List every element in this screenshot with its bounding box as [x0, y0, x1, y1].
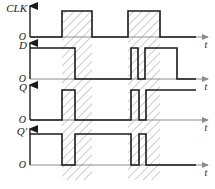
clock-band-2: [128, 11, 160, 180]
time-label-qprime: t: [205, 167, 208, 178]
signal-label-qprime: Q': [17, 125, 28, 137]
time-label-d: t: [205, 81, 208, 92]
origin-label-qprime: O: [19, 159, 26, 170]
waveform-qprime: [30, 134, 196, 165]
waveform-clk: [30, 11, 196, 37]
waveforms-group: [30, 11, 196, 165]
signal-label-d: D: [18, 39, 27, 51]
clock-band-1: [62, 11, 92, 180]
timing-diagram-figure: CLKOtDOtQOtQ'Ot: [0, 0, 215, 189]
time-label-q: t: [205, 122, 208, 133]
signal-label-clk: CLK: [6, 2, 27, 14]
waveform-d: [30, 48, 196, 79]
waveform-q: [30, 90, 196, 120]
signal-label-q: Q: [19, 81, 27, 93]
time-label-clk: t: [205, 39, 208, 50]
timing-diagram-canvas: CLKOtDOtQOtQ'Ot: [0, 0, 215, 189]
origin-label-q: O: [19, 114, 26, 125]
axes-group: [30, 6, 208, 165]
